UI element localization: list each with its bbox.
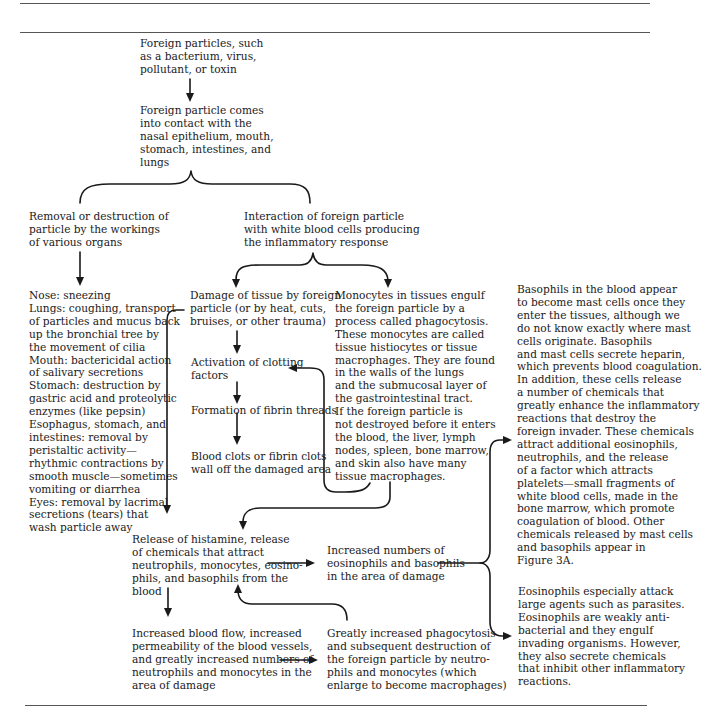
arrowhead-icon: [76, 277, 84, 286]
top-rule-upper: [20, 3, 650, 4]
arrowhead-icon: [239, 521, 247, 530]
brace-contact: [80, 171, 310, 203]
node-contact: Foreign particle comes into contact with…: [140, 104, 274, 169]
arrowhead-icon: [232, 279, 240, 288]
node-interaction: Interaction of foreign particle with whi…: [244, 210, 420, 249]
arrow-monocytes-to-histamine: [243, 482, 390, 522]
node-basophils: Basophils in the blood appear to become …: [517, 283, 702, 567]
arrowhead-icon: [164, 608, 172, 617]
arrowhead-icon: [233, 345, 241, 354]
bottom-rule: [25, 705, 647, 706]
arrowhead-icon: [186, 93, 194, 102]
arrowhead-icon: [306, 559, 315, 567]
arrowhead-icon: [384, 279, 392, 288]
node-organs: Nose: sneezing Lungs: coughing, transpor…: [29, 289, 180, 534]
node-eosinophils: Eosinophils especially attack large agen…: [518, 585, 685, 688]
node-phagocytosis: Greatly increased phagocytosis and subse…: [327, 627, 507, 692]
brace-eos-baso-lower: [480, 563, 504, 636]
node-damage: Damage of tissue by foreign particle (or…: [190, 289, 341, 328]
arrowhead-icon: [233, 436, 241, 445]
arrowhead-icon: [503, 436, 512, 444]
node-removal: Removal or destruction of particle by th…: [29, 210, 169, 249]
node-foreign-particles: Foreign particles, such as a bacterium, …: [140, 37, 263, 76]
node-fibrin: Formation of fibrin threads: [191, 404, 337, 417]
arrowhead-icon: [233, 395, 241, 404]
top-rule-lower: [20, 32, 650, 33]
node-monocytes: Monocytes in tissues engulf the foreign …: [335, 289, 496, 483]
node-clotting: Activation of clotting factors: [191, 356, 304, 382]
node-clots: Blood clots or fibrin clots wall off the…: [191, 450, 331, 476]
node-blood-flow: Increased blood flow, increased permeabi…: [132, 627, 313, 692]
brace-interaction: [236, 253, 388, 280]
node-histamine: Release of histamine, release of chemica…: [132, 533, 303, 598]
node-eos-baso: Increased numbers of eosinophils and bas…: [327, 544, 465, 583]
